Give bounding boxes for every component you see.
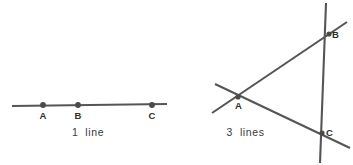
figure-page: A B C 1 line A B C 3 lines <box>0 0 353 165</box>
one-line-canvas <box>0 0 176 165</box>
point-label-a: A <box>235 101 242 111</box>
figure-one-line: A B C 1 line <box>0 0 176 165</box>
point-label-b: B <box>332 30 339 40</box>
intersection-marker-a <box>235 94 240 99</box>
horizontal-line-icon <box>12 104 167 106</box>
line-through-a-and-b-icon <box>212 22 347 113</box>
line-through-b-and-c-icon <box>320 3 326 163</box>
point-marker-c <box>149 102 155 108</box>
point-label-c: C <box>149 111 156 121</box>
line-through-a-and-c-icon <box>215 84 350 148</box>
point-marker-a <box>40 102 46 108</box>
point-label-a: A <box>40 111 47 121</box>
intersection-marker-b <box>326 31 331 36</box>
three-lines-canvas <box>176 0 353 165</box>
caption-three-lines: 3 lines <box>157 126 334 138</box>
figure-three-lines: A B C 3 lines <box>176 0 353 165</box>
caption-one-line: 1 line <box>0 126 176 138</box>
point-marker-b <box>75 102 81 108</box>
point-label-b: B <box>75 111 82 121</box>
